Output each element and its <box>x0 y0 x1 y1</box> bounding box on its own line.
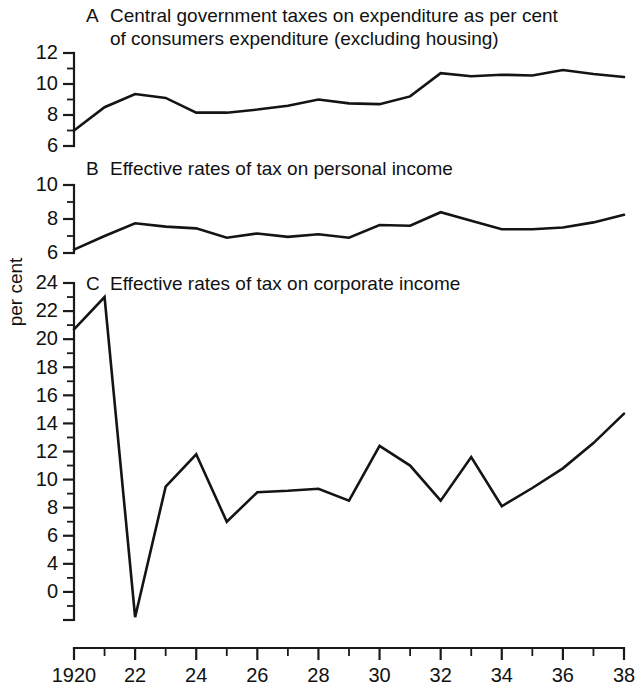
y-tick-label: 10 <box>36 72 58 94</box>
y-tick-label: 18 <box>36 356 58 378</box>
x-tick-label: 28 <box>307 664 329 686</box>
panel-b-data-line <box>74 212 624 249</box>
x-tick-label: 22 <box>124 664 146 686</box>
panel-a-axis <box>63 53 74 146</box>
panel-c-title-line1: Effective rates of tax on corporate inco… <box>110 273 460 294</box>
x-tick-label: 36 <box>552 664 574 686</box>
chart-figure: per cent A Central government taxes on e… <box>0 0 642 694</box>
y-tick-label: 8 <box>47 207 58 229</box>
panel-c-axis <box>63 283 74 620</box>
panel-a-letter: A <box>86 5 99 26</box>
y-tick-label: 6 <box>47 134 58 156</box>
panel-a: A Central government taxes on expenditur… <box>36 5 624 156</box>
y-tick-label: 10 <box>36 468 58 490</box>
tax-rates-chart: per cent A Central government taxes on e… <box>0 0 642 694</box>
x-tick-label: 38 <box>613 664 635 686</box>
x-tick-label: 1920 <box>52 664 97 686</box>
panel-c-letter: C <box>86 273 100 294</box>
panel-b-y-tick-labels: 1086 <box>36 173 58 263</box>
x-tick-label: 24 <box>185 664 207 686</box>
panel-c-y-tick-labels: 24222018161412108640 <box>36 271 58 602</box>
x-tick-label: 34 <box>491 664 513 686</box>
y-tick-label: 6 <box>47 524 58 546</box>
panel-b-letter: B <box>86 158 99 179</box>
y-tick-label: 6 <box>47 241 58 263</box>
y-tick-label: 14 <box>36 412 58 434</box>
panel-b: B Effective rates of tax on personal inc… <box>36 158 624 263</box>
x-axis: 1920222426283032343638 <box>52 648 635 686</box>
x-tick-label: 30 <box>368 664 390 686</box>
y-axis-title: per cent <box>5 257 26 326</box>
x-axis-ticks <box>74 648 624 660</box>
y-tick-label: 10 <box>36 173 58 195</box>
panel-b-axis <box>63 185 74 253</box>
y-tick-label: 20 <box>36 327 58 349</box>
y-tick-label: 22 <box>36 299 58 321</box>
x-axis-tick-labels: 1920222426283032343638 <box>52 664 635 686</box>
panel-c-data-line <box>74 297 624 617</box>
y-tick-label: 0 <box>47 580 58 602</box>
y-tick-label: 12 <box>36 41 58 63</box>
panel-a-data-line <box>74 70 624 130</box>
x-tick-label: 26 <box>246 664 268 686</box>
panel-a-title-line1: Central government taxes on expenditure … <box>110 5 559 26</box>
x-tick-label: 32 <box>430 664 452 686</box>
y-tick-label: 4 <box>47 552 58 574</box>
y-tick-label: 16 <box>36 384 58 406</box>
y-tick-label: 12 <box>36 440 58 462</box>
panel-a-title-line2: of consumers expenditure (excluding hous… <box>110 28 499 49</box>
panel-a-y-tick-labels: 121086 <box>36 41 58 156</box>
y-tick-label: 24 <box>36 271 58 293</box>
panel-c: C Effective rates of tax on corporate in… <box>36 271 624 620</box>
panel-b-title-line1: Effective rates of tax on personal incom… <box>110 158 453 179</box>
y-tick-label: 8 <box>47 496 58 518</box>
y-tick-label: 8 <box>47 103 58 125</box>
